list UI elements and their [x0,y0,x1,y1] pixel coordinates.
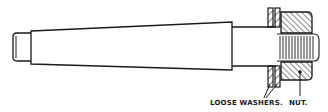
threaded-end [277,34,319,61]
washer-leader-1 [264,84,270,98]
arbor-shank [232,27,276,66]
label-nut: NUT. [289,99,308,107]
arbor-taper [31,22,232,70]
label-loose-washers: LOOSE WASHERS. [210,99,283,107]
arbor-diagram: LOOSE WASHERS. NUT. [0,0,328,112]
arbor-tang [13,33,31,61]
